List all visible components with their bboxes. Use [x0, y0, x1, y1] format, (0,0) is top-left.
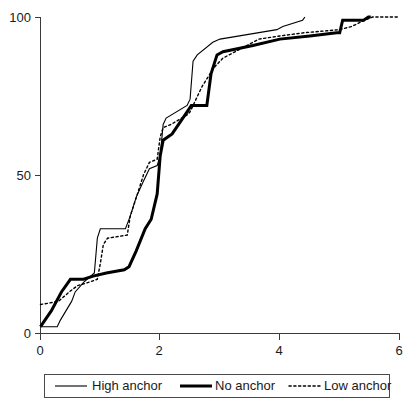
y-axis-tick-label-50: 50	[17, 168, 31, 183]
x-axis-tick-label-4: 4	[275, 343, 282, 358]
x-axis-tick-label-0: 0	[36, 343, 43, 358]
series-line-no-anchor	[41, 17, 371, 327]
axes-group	[35, 17, 400, 340]
legend-label-high-anchor: High anchor	[92, 378, 163, 393]
legend-label-low-anchor: Low anchor	[324, 378, 392, 393]
series-group	[41, 17, 400, 327]
legend-label-no-anchor: No anchor	[215, 378, 276, 393]
x-axis-tick-label-6: 6	[395, 343, 402, 358]
chart-container: 100 50 0 0 2 4 6 High anchor No anchor L…	[0, 0, 413, 411]
y-axis-tick-label-100: 100	[9, 10, 31, 25]
tick-labels-group: 100 50 0 0 2 4 6	[9, 10, 402, 358]
x-axis-tick-label-2: 2	[155, 343, 162, 358]
series-line-low-anchor	[41, 17, 400, 305]
y-axis-tick-label-0: 0	[24, 326, 31, 341]
chart-legend: High anchor No anchor Low anchor	[45, 375, 392, 398]
line-chart: 100 50 0 0 2 4 6 High anchor No anchor L…	[0, 0, 413, 411]
